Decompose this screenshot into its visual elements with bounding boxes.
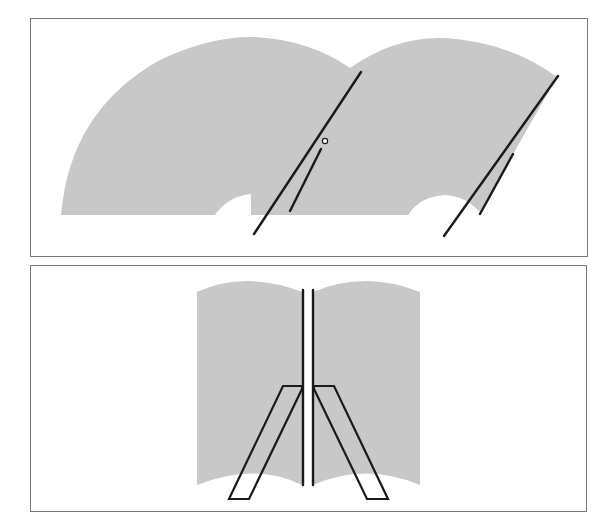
top-left-wiper-pivot-icon <box>322 138 327 143</box>
bottom-panel-diagram <box>197 281 420 499</box>
wiper-diagram <box>0 0 604 532</box>
top-panel-diagram <box>61 37 558 236</box>
